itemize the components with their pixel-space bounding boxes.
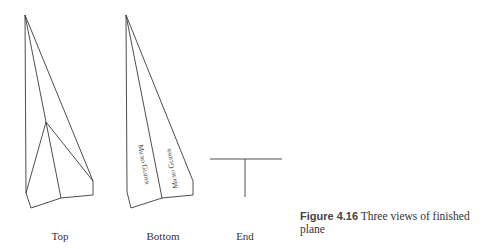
top-view-label: Top bbox=[30, 230, 90, 242]
bottom-view-left-wing-text: Micro Glider bbox=[136, 144, 153, 186]
bottom-view-right-wing-text: Micro Glider bbox=[163, 147, 180, 189]
top-view-inner-left bbox=[26, 122, 46, 193]
end-view bbox=[210, 159, 282, 197]
bottom-view-trailing-edge bbox=[127, 181, 193, 208]
top-view bbox=[25, 15, 93, 208]
bottom-view-right-edge bbox=[126, 15, 193, 181]
top-view-left-edge bbox=[25, 15, 26, 193]
top-view-center-fold bbox=[46, 122, 61, 198]
bottom-view-left-edge bbox=[126, 15, 127, 192]
figure-caption: Figure 4.16 Three views of finished plan… bbox=[300, 210, 495, 236]
top-view-inner-right bbox=[46, 122, 93, 181]
figure-number: Figure 4.16 bbox=[300, 210, 358, 222]
bottom-view-label: Bottom bbox=[133, 230, 193, 242]
bottom-view bbox=[126, 15, 193, 208]
top-view-right-edge bbox=[25, 15, 93, 181]
end-view-label: End bbox=[215, 230, 275, 242]
top-view-fold-line bbox=[25, 15, 46, 122]
top-view-trailing-edge bbox=[26, 181, 93, 208]
